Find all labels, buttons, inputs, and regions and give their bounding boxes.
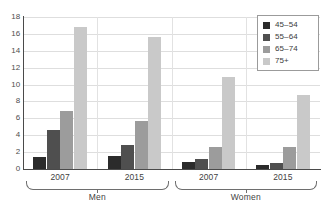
y-axis-line (23, 16, 24, 170)
legend-item[interactable]: 45–54 (263, 19, 314, 31)
group-separator (97, 17, 98, 169)
bar[interactable] (148, 37, 161, 169)
legend-item[interactable]: 55–64 (263, 31, 314, 43)
bar[interactable] (121, 145, 134, 169)
legend-label-55-64: 55–64 (275, 33, 298, 41)
y-tick-label: 6 (2, 114, 20, 122)
bar[interactable] (33, 157, 46, 169)
bar[interactable] (108, 156, 121, 169)
bar[interactable] (209, 147, 222, 169)
bar[interactable] (297, 95, 310, 169)
bar[interactable] (195, 159, 208, 169)
legend-label-65-74: 65–74 (275, 45, 298, 53)
bar[interactable] (47, 130, 60, 169)
y-tick-label: 18 (2, 13, 20, 21)
legend: 45–54 55–64 65–74 75+ (257, 15, 319, 71)
y-tick-label: 14 (2, 47, 20, 55)
legend-item[interactable]: 65–74 (263, 43, 314, 55)
legend-swatch-55-64 (263, 34, 270, 41)
group-separator (172, 17, 173, 169)
group-label-women: Women (206, 192, 286, 202)
bar[interactable] (283, 147, 296, 169)
bar[interactable] (135, 121, 148, 169)
legend-swatch-65-74 (263, 46, 270, 53)
bar-chart: 181614121086420 2007201520072015MenWomen… (0, 0, 328, 209)
bar[interactable] (74, 27, 87, 169)
y-tick-label: 10 (2, 81, 20, 89)
y-tick-label: 2 (2, 148, 20, 156)
bar[interactable] (222, 77, 235, 169)
legend-swatch-45-54 (263, 22, 270, 29)
legend-label-75-plus: 75+ (275, 57, 289, 65)
group-separator (246, 17, 247, 169)
y-tick-label: 0 (2, 165, 20, 173)
y-tick-label: 16 (2, 30, 20, 38)
legend-swatch-75-plus (263, 58, 270, 65)
y-tick-label: 4 (2, 131, 20, 139)
chart-title (0, 0, 328, 7)
group-label-men: Men (57, 192, 137, 202)
bar[interactable] (60, 111, 73, 169)
legend-item[interactable]: 75+ (263, 55, 314, 67)
legend-label-45-54: 45–54 (275, 21, 298, 29)
y-tick-label: 8 (2, 97, 20, 105)
y-tick-label: 12 (2, 64, 20, 72)
bar[interactable] (182, 162, 195, 169)
x-axis-line (23, 169, 321, 170)
